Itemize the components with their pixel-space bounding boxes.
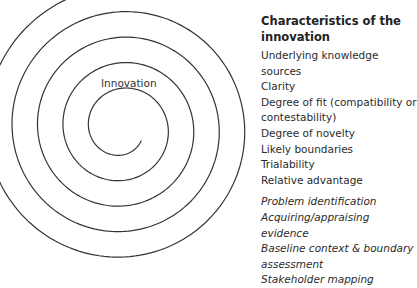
- panel-title: Characteristics of the innovation: [261, 13, 409, 45]
- characteristic-item: Relative advantage: [261, 173, 409, 189]
- process-step-item: Acquiring/appraising: [261, 210, 409, 226]
- characteristic-item: Degree of fit (compatibility or: [261, 95, 409, 111]
- characteristic-item: Likely boundaries: [261, 142, 409, 158]
- characteristics-panel: Characteristics of the innovation Underl…: [261, 13, 409, 288]
- process-steps-list: Problem identification Acquiring/apprais…: [261, 194, 409, 288]
- innovation-spiral: [0, 0, 260, 283]
- process-step-item: Stakeholder mapping: [261, 272, 409, 288]
- process-step-item: assessment: [261, 257, 409, 273]
- characteristic-item: Trialability: [261, 157, 409, 173]
- process-step-item: Problem identification: [261, 194, 409, 210]
- characteristic-item: contestability): [261, 110, 409, 126]
- panel-title-line-1: Characteristics of the: [261, 13, 409, 29]
- spiral-line: [0, 0, 245, 257]
- characteristic-item: sources: [261, 64, 409, 80]
- characteristic-item: Underlying knowledge: [261, 48, 409, 64]
- panel-title-line-2: innovation: [261, 29, 409, 45]
- spiral-center-label: Innovation: [101, 77, 157, 89]
- characteristic-item: Clarity: [261, 79, 409, 95]
- characteristics-list: Underlying knowledge sources Clarity Deg…: [261, 48, 409, 188]
- process-step-item: evidence: [261, 226, 409, 242]
- process-step-item: Baseline context & boundary: [261, 241, 409, 257]
- characteristic-item: Degree of novelty: [261, 126, 409, 142]
